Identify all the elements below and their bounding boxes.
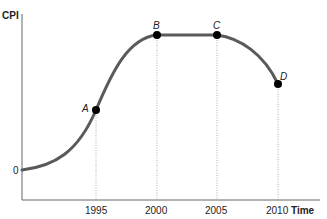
point-c-marker [213,31,221,39]
y-axis-label: CPI [2,10,19,21]
point-b-marker [153,31,161,39]
point-c-label: C [213,20,221,31]
x-tick-1995: 1995 [85,205,108,216]
point-d-label: D [280,71,287,82]
x-tick-2005: 2005 [205,205,228,216]
point-b-label: B [153,20,160,31]
x-axis-label: Time [291,205,315,216]
x-tick-2010: 2010 [266,205,289,216]
cpi-curve [22,35,278,170]
point-a-marker [92,106,100,114]
point-a-label: A [81,103,89,114]
cpi-chart: A B C D CPI Time 0 1995 2000 2005 2010 [0,0,327,219]
y-tick-zero: 0 [13,165,19,176]
x-tick-2000: 2000 [145,205,168,216]
